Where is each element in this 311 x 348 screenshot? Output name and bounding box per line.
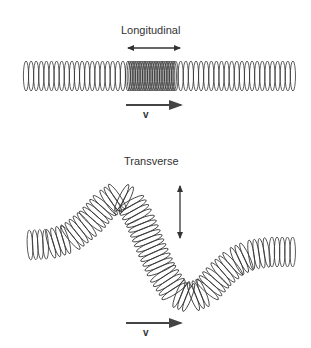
longitudinal-title: Longitudinal bbox=[121, 24, 180, 36]
longitudinal-spring bbox=[23, 61, 295, 91]
wave-diagram bbox=[0, 0, 311, 348]
transverse-spring bbox=[26, 183, 295, 313]
transverse-title: Transverse bbox=[124, 155, 179, 167]
longitudinal-velocity-label: v bbox=[143, 109, 149, 120]
transverse-velocity-label: v bbox=[143, 327, 149, 338]
